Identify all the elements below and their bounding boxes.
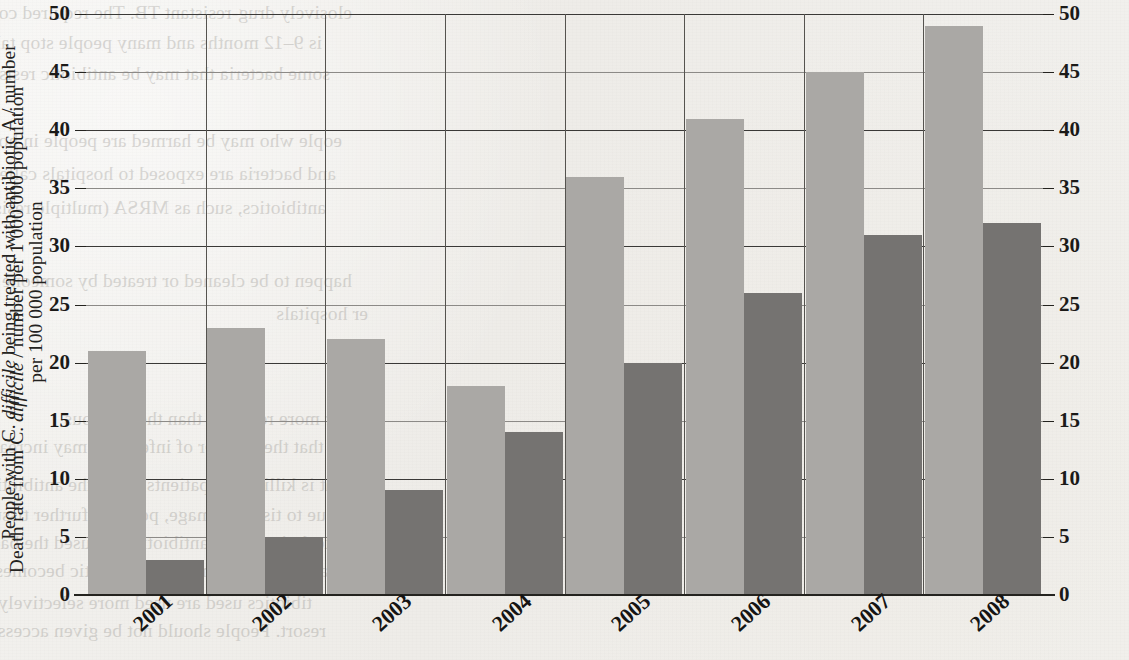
y-axis-tick — [75, 130, 86, 131]
y-axis-tick — [1043, 421, 1054, 422]
y-axis-tick — [1043, 479, 1054, 480]
y-axis-tick — [1043, 130, 1054, 131]
bar-2004-series-1 — [447, 386, 505, 595]
bar-2004-series-2 — [505, 432, 563, 595]
y-axis-right-label: 45 — [1059, 61, 1080, 82]
y-axis-tick — [1043, 537, 1054, 538]
y-axis-right-label: 0 — [1059, 584, 1070, 605]
bar-2006-series-1 — [686, 119, 744, 595]
y-axis-right-label: 30 — [1059, 235, 1080, 256]
y-axis-tick — [1043, 305, 1054, 306]
x-axis-label-cell: 2003 — [325, 599, 445, 659]
y-axis-left-label: 30 — [49, 235, 70, 256]
x-axis-line — [74, 594, 1055, 596]
y-axis-right-label: 35 — [1059, 177, 1080, 198]
bar-group — [923, 14, 1043, 595]
bar-group — [325, 14, 445, 595]
y-axis-tick — [75, 363, 86, 364]
plot-area: 05101520253035404550 0510152025303540455… — [86, 14, 1043, 595]
bar-2001-series-1 — [88, 351, 146, 595]
bar-chart: 05101520253035404550 0510152025303540455… — [0, 0, 1129, 660]
bar-groups — [86, 14, 1043, 595]
bar-group — [804, 14, 924, 595]
y-axis-tick — [1043, 72, 1054, 73]
bar-2007-series-1 — [806, 72, 864, 595]
x-axis-label-cell: 2005 — [565, 599, 685, 659]
y-axis-tick — [75, 188, 86, 189]
bar-group — [86, 14, 206, 595]
y-axis-left-label: 15 — [49, 410, 70, 431]
y-axis-tick — [1043, 246, 1054, 247]
bar-2007-series-2 — [864, 235, 922, 595]
x-axis-label-cell: 2006 — [684, 599, 804, 659]
bar-2005-series-1 — [566, 177, 624, 595]
x-axis-label-cell: 2002 — [206, 599, 326, 659]
x-axis-label-cell: 2007 — [804, 599, 924, 659]
y-axis-right-label: 20 — [1059, 352, 1080, 373]
y-axis-left-label: 0 — [60, 584, 71, 605]
y-axis-right-label: 15 — [1059, 410, 1080, 431]
y-axis-left-label: 25 — [49, 294, 70, 315]
x-axis-label-cell: 2004 — [445, 599, 565, 659]
y-axis-tick — [75, 246, 86, 247]
bar-2006-series-2 — [744, 293, 802, 595]
bar-group — [206, 14, 326, 595]
bar-group — [565, 14, 685, 595]
x-axis-label-cell: 2008 — [923, 599, 1043, 659]
y-axis-left-label: 40 — [49, 119, 70, 140]
y-axis-tick — [75, 479, 86, 480]
bar-2002-series-1 — [207, 328, 265, 595]
y-axis-right-label: 25 — [1059, 294, 1080, 315]
y-axis-right-label: 50 — [1059, 3, 1080, 24]
y-axis-right-label: 40 — [1059, 119, 1080, 140]
bar-2001-series-2 — [146, 560, 204, 595]
bar-2008-series-2 — [983, 223, 1041, 595]
y-axis-tick — [1043, 188, 1054, 189]
y-axis-tick — [75, 537, 86, 538]
y-axis-tick — [1043, 363, 1054, 364]
y-axis-right-label: 5 — [1059, 526, 1070, 547]
y-axis-tick — [1043, 14, 1054, 15]
y-axis-left-label: 10 — [49, 468, 70, 489]
y-axis-tick — [75, 14, 86, 15]
y-axis-tick — [75, 421, 86, 422]
y-axis-left-label: 50 — [49, 3, 70, 24]
bar-2005-series-2 — [624, 363, 682, 595]
y-axis-left-label: 20 — [49, 352, 70, 373]
y-axis-right-label: 10 — [1059, 468, 1080, 489]
y-axis-left-label: 35 — [49, 177, 70, 198]
y-axis-left-label: 45 — [49, 61, 70, 82]
x-axis-label-cell: 2001 — [86, 599, 206, 659]
y-axis-tick — [75, 72, 86, 73]
bar-group — [445, 14, 565, 595]
y-axis-left-label: 5 — [60, 526, 71, 547]
bar-2008-series-1 — [925, 26, 983, 595]
bar-2003-series-2 — [385, 490, 443, 595]
x-axis-labels: 20012002200320042005200620072008 — [86, 599, 1043, 659]
bar-group — [684, 14, 804, 595]
bar-2003-series-1 — [327, 339, 385, 595]
bar-2002-series-2 — [265, 537, 323, 595]
y-axis-tick — [75, 305, 86, 306]
